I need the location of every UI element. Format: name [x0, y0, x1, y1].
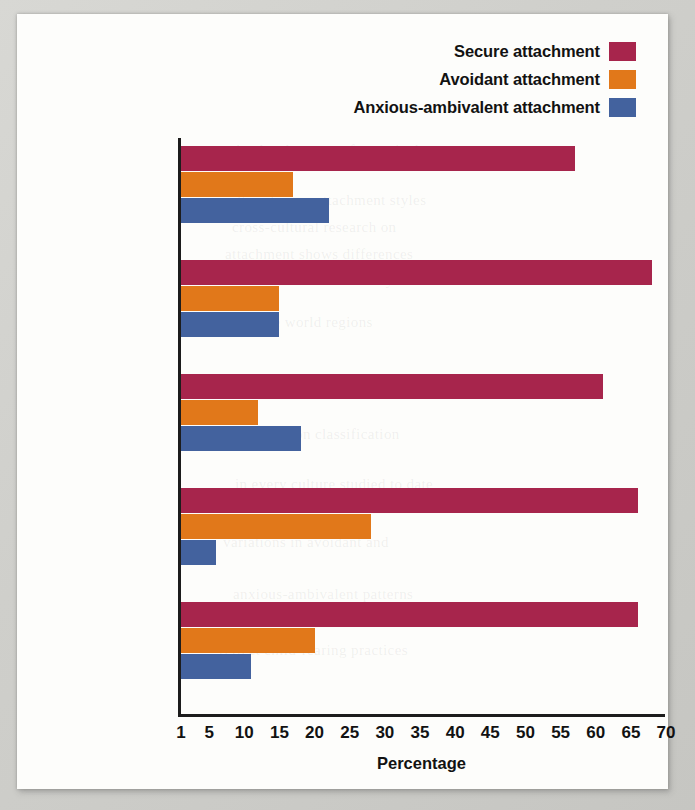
- bar-anxious: [181, 654, 251, 679]
- x-tick-label: 20: [305, 723, 324, 743]
- x-tick-label: 30: [375, 723, 394, 743]
- x-axis-title: Percentage: [178, 754, 665, 773]
- x-tick-label: 35: [411, 723, 430, 743]
- bar-secure: [181, 488, 638, 513]
- chart-panel: the development of a particular culture …: [17, 14, 668, 789]
- bar-avoidant: [181, 286, 279, 311]
- x-tick-label: 45: [481, 723, 500, 743]
- x-tick-label: 5: [204, 723, 213, 743]
- x-tick-label: 10: [235, 723, 254, 743]
- x-tick-label: 40: [446, 723, 465, 743]
- x-tick-label: 25: [340, 723, 359, 743]
- bar-anxious: [181, 198, 329, 223]
- bar-anxious: [181, 312, 279, 337]
- bar-anxious: [181, 426, 301, 451]
- bar-secure: [181, 260, 652, 285]
- x-tick-label: 50: [516, 723, 535, 743]
- x-tick-label: 65: [621, 723, 640, 743]
- bar-secure: [181, 146, 575, 171]
- bar-avoidant: [181, 514, 371, 539]
- x-axis-line: [178, 714, 665, 717]
- x-tick-label: 55: [551, 723, 570, 743]
- plot-area: AfricaChinaJapan (Tokyo)Western EuropeUn…: [17, 14, 668, 789]
- scanned-page-background: the development of a particular culture …: [0, 0, 695, 810]
- x-tick-label: 15: [270, 723, 289, 743]
- x-tick-label: 70: [657, 723, 676, 743]
- bar-avoidant: [181, 400, 258, 425]
- bar-avoidant: [181, 172, 293, 197]
- x-tick-label: 1: [176, 723, 185, 743]
- bar-secure: [181, 374, 603, 399]
- bar-avoidant: [181, 628, 315, 653]
- bar-anxious: [181, 540, 216, 565]
- bar-secure: [181, 602, 638, 627]
- x-tick-label: 60: [586, 723, 605, 743]
